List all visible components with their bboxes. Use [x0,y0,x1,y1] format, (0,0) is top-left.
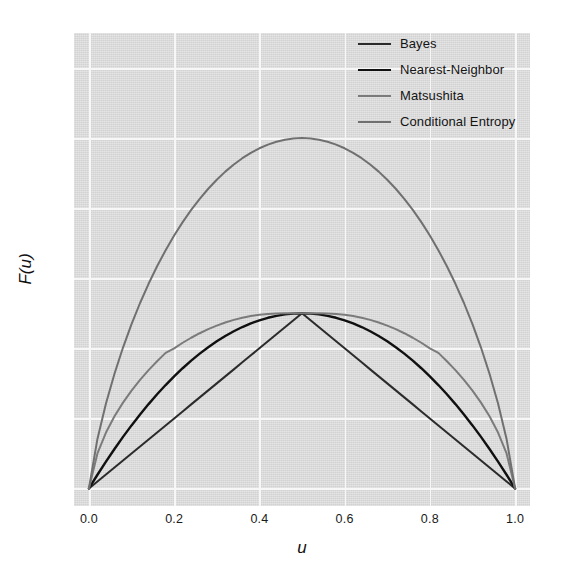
legend-item-bayes[interactable]: Bayes [358,36,515,51]
legend-item-nearest-neighbor[interactable]: Nearest-Neighbor [358,62,515,77]
legend-line-icon-matsushita [358,95,391,97]
legend-item-matsushita[interactable]: Matsushita [358,88,515,103]
legend-label-matsushita: Matsushita [400,88,464,103]
x-tick-label-0.6: 0.6 [315,512,375,526]
x-tick-label-0.8: 0.8 [400,512,460,526]
chart-legend: BayesNearest-NeighborMatsushitaCondition… [358,36,515,129]
legend-line-icon-bayes [358,43,391,45]
figure-chart: F(u) u 0.00.20.40.60.81.01.20.00.20.40.6… [0,0,580,570]
x-tick-label-0.4: 0.4 [229,512,289,526]
x-tick-label-0.0: 0.0 [59,512,119,526]
curve-nearest-neighbor [89,313,515,488]
x-tick-label-0.2: 0.2 [144,512,204,526]
x-tick-label-1.0: 1.0 [485,512,545,526]
x-axis-label: u [297,538,306,558]
legend-label-conditional-entropy: Conditional Entropy [400,114,515,129]
legend-label-nearest-neighbor: Nearest-Neighbor [400,62,504,77]
legend-item-conditional-entropy[interactable]: Conditional Entropy [358,114,515,129]
y-axis-label: F(u) [16,253,36,284]
legend-label-bayes: Bayes [400,36,437,51]
legend-line-icon-conditional-entropy [358,121,391,123]
legend-line-icon-nearest-neighbor [358,69,391,71]
